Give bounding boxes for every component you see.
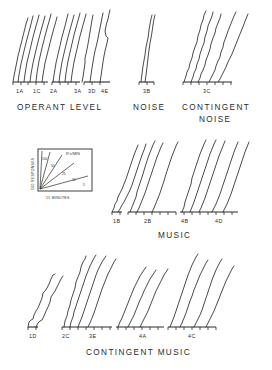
record-label-4C: 4C (188, 333, 196, 339)
section-label-contingent-noise-line2: NOISE (199, 115, 231, 124)
record-trace-2B-c (152, 142, 178, 212)
figure-canvas: 1A 1C 2A 3A 3D 4E OPERANT LEVEL 3B NOISE… (0, 0, 272, 370)
record-trace-3E-b (88, 259, 116, 327)
panel-operant-level: 1A 1C 2A 3A 3D 4E OPERANT LEVEL (13, 10, 110, 112)
rate-value-25: 25 (62, 172, 66, 176)
rate-value-10: 10 (72, 178, 76, 182)
record-label-3B: 3B (143, 88, 151, 94)
section-label-music: MUSIC (158, 231, 191, 240)
legend-x-axis-label: 15 MINUTES (46, 196, 70, 200)
record-trace-4C-b (180, 260, 208, 327)
record-trace-1A (13, 18, 28, 82)
record-label-1C: 1C (33, 88, 41, 94)
rate-units-label: R's/MIN (66, 152, 80, 156)
rate-value-5: 5 (83, 183, 85, 187)
record-trace-1D-a (28, 274, 55, 327)
record-label-3D: 3D (88, 88, 96, 94)
record-label-1A: 1A (16, 88, 24, 94)
record-label-3A: 3A (74, 88, 82, 94)
record-trace-4D-b (212, 142, 238, 212)
section-label-operant-level: OPERANT LEVEL (17, 103, 102, 112)
record-trace-4D-c (223, 142, 249, 212)
record-label-4B: 4B (181, 218, 189, 224)
record-label-1D: 1D (29, 333, 37, 339)
record-label-2B: 2B (144, 218, 152, 224)
record-label-4D: 4D (215, 218, 223, 224)
section-label-contingent-noise-line1: CONTINGENT (182, 103, 250, 112)
record-trace-4C-d (206, 266, 234, 327)
rate-value-50: 50 (51, 164, 55, 168)
cumulative-record-figure: 1A 1C 2A 3A 3D 4E OPERANT LEVEL 3B NOISE… (0, 0, 272, 370)
rate-line-10 (40, 163, 74, 189)
panel-contingent-music: 1D 2C 3E 4A 4C CONTINGENT MUSIC (28, 254, 234, 357)
section-label-noise: NOISE (133, 103, 165, 112)
panel-noise: 3B NOISE (133, 15, 165, 112)
record-label-4E: 4E (101, 88, 109, 94)
record-trace-2C-a (64, 256, 86, 327)
record-label-1B: 1B (113, 218, 121, 224)
record-label-2A: 2A (50, 88, 58, 94)
rate-calibration-inset: 100 50 25 10 5 R's/MIN 500 RESPONSES 15 … (31, 149, 92, 200)
record-trace-3C-d (209, 12, 236, 82)
record-trace-3E-a (78, 256, 106, 327)
legend-y-axis-label: 500 RESPONSES (31, 157, 35, 190)
record-trace-4A-b (128, 270, 156, 327)
record-label-2C: 2C (62, 333, 70, 339)
panel-contingent-noise: 3C CONTINGENT NOISE (182, 11, 250, 124)
record-trace-4E (90, 13, 103, 82)
panel-music: 1B 2B 4B 4D MUSIC (112, 140, 249, 240)
record-label-3C: 3C (203, 88, 211, 94)
record-trace-4C-c (194, 259, 222, 327)
record-label-3E: 3E (89, 333, 97, 339)
section-label-contingent-music: CONTINGENT MUSIC (86, 348, 191, 357)
record-label-4A: 4A (139, 333, 147, 339)
record-trace-2B-a (130, 141, 155, 212)
rate-value-100: 100 (42, 157, 48, 161)
record-trace-4A-c (140, 269, 168, 327)
